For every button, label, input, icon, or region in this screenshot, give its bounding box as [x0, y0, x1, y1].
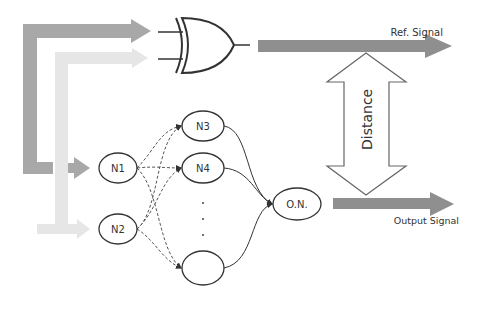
- ellipsis-dots: [202, 202, 204, 236]
- node-output: O.N.: [273, 188, 321, 220]
- solid-connections: [224, 126, 272, 268]
- ref-signal-label: Ref. Signal: [390, 27, 443, 38]
- node-nn: [182, 251, 224, 285]
- node-n3-label: N3: [196, 121, 210, 132]
- node-n1: N1: [99, 153, 137, 183]
- node-n4-label: N4: [196, 163, 210, 174]
- input-a-arrow: [23, 19, 151, 179]
- input-b-arrow: [37, 48, 148, 239]
- node-n2: N2: [99, 214, 137, 244]
- xor-gate-icon: [158, 18, 250, 73]
- distance-label: Distance: [359, 89, 375, 150]
- output-signal-arrow: [333, 192, 454, 216]
- node-output-label: O.N.: [286, 199, 307, 210]
- node-n1-label: N1: [111, 163, 125, 174]
- output-signal-label: Output Signal: [394, 215, 459, 226]
- diagram-canvas: Ref. Signal Distance N1 N2 N3 N4: [0, 0, 489, 310]
- node-n2-label: N2: [111, 224, 125, 235]
- node-n4: N4: [182, 153, 224, 183]
- dashed-connections: [137, 126, 181, 268]
- node-n3: N3: [182, 111, 224, 141]
